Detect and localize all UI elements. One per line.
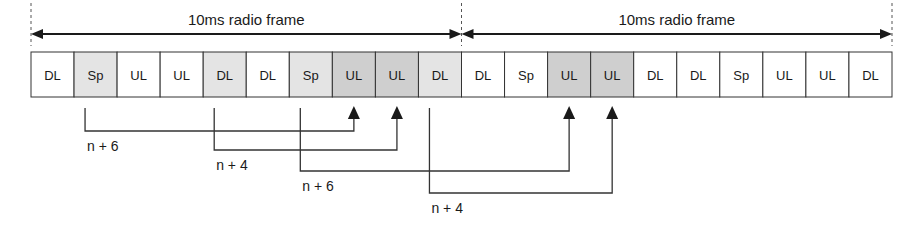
timing-link: n + 4 (214, 106, 403, 173)
subframe-cell: DL (246, 52, 289, 97)
timing-label: n + 4 (431, 200, 463, 216)
timing-link: n + 6 (85, 106, 360, 154)
radio-frames: 10ms radio frame10ms radio frame (31, 3, 892, 46)
subframe-cell: UL (117, 52, 160, 97)
arrow-up-icon (391, 106, 403, 119)
timing-link: n + 4 (429, 106, 618, 216)
subframe-label: Sp (518, 68, 534, 83)
subframe-cell: DL (849, 52, 892, 97)
subframe-cell: Sp (289, 52, 332, 97)
subframe-label: DL (475, 68, 492, 83)
subframe-label: UL (561, 68, 578, 83)
subframe-label: Sp (303, 68, 319, 83)
subframe-cell: UL (806, 52, 849, 97)
subframe-cell: UL (375, 52, 418, 97)
subframe-label: UL (346, 68, 363, 83)
timing-label: n + 4 (216, 157, 248, 173)
frame-label: 10ms radio frame (618, 11, 735, 28)
subframe-cell: DL (31, 52, 74, 97)
subframe-label: DL (259, 68, 276, 83)
arrow-right-icon (450, 29, 462, 39)
subframe-label: UL (776, 68, 793, 83)
tdd-frame-diagram: 10ms radio frame10ms radio frame DLSpULU… (0, 0, 922, 225)
timing-label: n + 6 (302, 178, 334, 194)
subframe-cell: DL (418, 52, 461, 97)
subframe-label: DL (432, 68, 449, 83)
subframe-cell: UL (160, 52, 203, 97)
subframe-label: Sp (733, 68, 749, 83)
subframe-cell: DL (634, 52, 677, 97)
frame-label: 10ms radio frame (188, 11, 305, 28)
subframe-row: DLSpULULDLDLSpULULDLDLSpULULDLDLSpULULDL (31, 52, 892, 97)
subframe-cell: UL (763, 52, 806, 97)
subframe-cell: Sp (74, 52, 117, 97)
subframe-cell: DL (462, 52, 505, 97)
subframe-label: UL (819, 68, 836, 83)
subframe-cell: UL (591, 52, 634, 97)
arrow-left-icon (462, 29, 474, 39)
subframe-label: DL (690, 68, 707, 83)
subframe-cell: Sp (720, 52, 763, 97)
timing-label: n + 6 (87, 138, 119, 154)
subframe-label: DL (862, 68, 879, 83)
timing-links: n + 6n + 4n + 6n + 4 (85, 106, 618, 216)
subframe-label: UL (173, 68, 190, 83)
arrow-right-icon (880, 29, 892, 39)
subframe-label: DL (44, 68, 61, 83)
subframe-label: UL (604, 68, 621, 83)
subframe-cell: UL (548, 52, 591, 97)
arrow-left-icon (31, 29, 43, 39)
arrow-up-icon (348, 106, 360, 119)
subframe-cell: DL (203, 52, 246, 97)
subframe-cell: UL (332, 52, 375, 97)
subframe-cell: Sp (505, 52, 548, 97)
subframe-label: DL (216, 68, 233, 83)
subframe-label: UL (389, 68, 406, 83)
subframe-cell: DL (677, 52, 720, 97)
subframe-label: DL (647, 68, 664, 83)
subframe-label: Sp (88, 68, 104, 83)
arrow-up-icon (606, 106, 618, 119)
subframe-label: UL (130, 68, 147, 83)
arrow-up-icon (563, 106, 575, 119)
